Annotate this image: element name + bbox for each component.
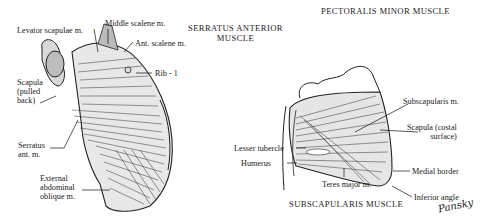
label-serratus-ant: Serratus ant. m. [18, 141, 45, 159]
title-subscapularis: SUBSCAPULARIS MUSCLE [289, 199, 403, 209]
label-medial-border: Medial border [412, 167, 459, 176]
title-serratus-anterior: SERRATUS ANTERIOR MUSCLE [188, 23, 283, 43]
label-scapula-costal-surface: Scapula (costal surface) [407, 123, 457, 141]
label-middle-scalene: Middle scalene m. [105, 19, 165, 28]
label-subscapularis: Subscapularis m. [403, 97, 459, 106]
label-scapula-line2: (pulled [17, 87, 43, 96]
label-levator-scapulae: Levator scapulae m. [17, 26, 83, 35]
label-scapula-costal-line2: surface) [407, 132, 457, 141]
subscapularis-illustration [283, 66, 392, 190]
label-lesser-tubercle: Lesser tubercle [234, 144, 284, 153]
title-pectoralis-minor: PECTORALIS MINOR MUSCLE [321, 6, 450, 16]
label-external-oblique: External abdominal oblique m. [40, 174, 75, 201]
label-ext-oblique-line1: External [40, 174, 75, 183]
glenoid [46, 51, 64, 77]
label-serratus-line1: Serratus [18, 141, 45, 150]
title-serratus-line2: MUSCLE [188, 33, 283, 43]
scapula-outline [289, 92, 392, 186]
label-ext-oblique-line2: abdominal [40, 183, 75, 192]
label-scapula-line3: back) [17, 96, 43, 105]
title-serratus-line1: SERRATUS ANTERIOR [188, 23, 283, 33]
label-scapula-line1: Scapula [17, 78, 43, 87]
label-serratus-line2: ant. m. [18, 150, 45, 159]
label-scapula-costal-line1: Scapula (costal [407, 123, 457, 132]
label-humerus: Humerus [241, 159, 271, 168]
label-rib-1: Rib - 1 [155, 69, 178, 78]
label-ext-oblique-line3: oblique m. [40, 192, 75, 201]
label-ant-scalene: Ant. scalene m. [135, 39, 186, 48]
label-scapula-pulled-back: Scapula (pulled back) [17, 78, 43, 105]
label-teres-major: Teres major m. [322, 180, 371, 189]
